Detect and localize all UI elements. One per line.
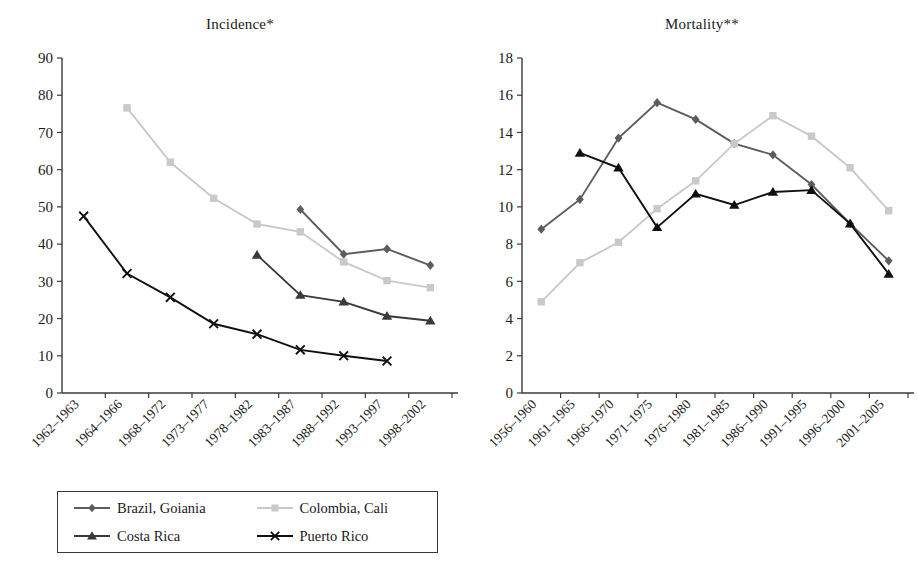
square-marker bbox=[653, 205, 660, 212]
square-marker bbox=[885, 207, 892, 214]
legend-label: Colombia, Cali bbox=[300, 501, 389, 516]
y-axis-tick-label: 12 bbox=[498, 162, 513, 178]
triangle-marker bbox=[691, 189, 701, 198]
incidence-plot-area: 01020304050607080901962–19631964–1966196… bbox=[0, 0, 460, 480]
square-marker bbox=[123, 104, 130, 111]
series-line-brazil-goiania bbox=[300, 209, 430, 265]
series-line-costa-rica bbox=[580, 153, 889, 274]
y-axis-tick-label: 0 bbox=[506, 385, 514, 401]
y-axis-tick-label: 40 bbox=[38, 236, 53, 252]
legend-item: Brazil, Goiania bbox=[72, 494, 255, 522]
y-axis-tick-label: 14 bbox=[498, 125, 514, 141]
mortality-plot-area: 0246810121416181956–19601961–19651966–19… bbox=[458, 0, 918, 480]
y-axis-tick-label: 30 bbox=[38, 274, 53, 290]
square-marker bbox=[427, 284, 434, 291]
legend-label: Costa Rica bbox=[117, 529, 180, 544]
legend-swatch-square-icon bbox=[255, 501, 295, 515]
diamond-marker bbox=[88, 504, 95, 513]
square-marker bbox=[576, 259, 583, 266]
y-axis-tick-label: 50 bbox=[38, 199, 53, 215]
y-axis-tick-label: 10 bbox=[498, 199, 513, 215]
y-axis-tick-label: 60 bbox=[38, 162, 53, 178]
square-marker bbox=[271, 504, 278, 511]
x-marker bbox=[123, 269, 132, 278]
square-marker bbox=[692, 177, 699, 184]
y-axis-tick-label: 0 bbox=[46, 385, 54, 401]
mortality-chart-panel: Mortality** 0246810121416181956–19601961… bbox=[458, 0, 918, 563]
y-axis-tick-label: 80 bbox=[38, 87, 53, 103]
legend-swatch-x-icon bbox=[255, 529, 295, 543]
square-marker bbox=[769, 112, 776, 119]
legend-item: Colombia, Cali bbox=[255, 494, 438, 522]
y-axis-tick-label: 8 bbox=[506, 236, 514, 252]
legend-swatch-triangle-icon bbox=[72, 529, 112, 543]
square-marker bbox=[297, 228, 304, 235]
series-line-puerto-rico bbox=[84, 216, 387, 361]
x-axis-tick-label: 1998–2002 bbox=[375, 397, 429, 451]
y-axis-tick-label: 2 bbox=[506, 348, 514, 364]
y-axis-tick-label: 18 bbox=[498, 50, 513, 66]
square-marker bbox=[731, 140, 738, 147]
square-marker bbox=[383, 277, 390, 284]
incidence-chart-panel: Incidence* 01020304050607080901962–19631… bbox=[0, 0, 460, 563]
x-marker bbox=[166, 293, 175, 302]
square-marker bbox=[340, 258, 347, 265]
diamond-marker bbox=[426, 261, 434, 270]
y-axis-tick-label: 20 bbox=[38, 311, 53, 327]
triangle-marker bbox=[575, 148, 585, 157]
series-line-colombia-cali bbox=[127, 108, 430, 288]
legend-label: Puerto Rico bbox=[300, 529, 369, 544]
square-marker bbox=[615, 239, 622, 246]
diamond-marker bbox=[692, 115, 700, 124]
square-marker bbox=[538, 298, 545, 305]
x-marker bbox=[79, 212, 88, 221]
legend-label: Brazil, Goiania bbox=[117, 501, 206, 516]
triangle-marker bbox=[252, 250, 262, 259]
y-axis-tick-label: 6 bbox=[506, 274, 514, 290]
y-axis-tick-label: 90 bbox=[38, 50, 53, 66]
series-line-chile bbox=[541, 103, 888, 261]
incidence-legend: Brazil, GoianiaColombia, CaliCosta RicaP… bbox=[57, 491, 438, 553]
square-marker bbox=[210, 195, 217, 202]
y-axis-tick-label: 10 bbox=[38, 348, 53, 364]
square-marker bbox=[808, 132, 815, 139]
y-axis-tick-label: 4 bbox=[506, 311, 514, 327]
square-marker bbox=[846, 164, 853, 171]
y-axis-tick-label: 16 bbox=[498, 87, 514, 103]
square-marker bbox=[253, 220, 260, 227]
legend-swatch-diamond-icon bbox=[72, 501, 112, 515]
y-axis-tick-label: 70 bbox=[38, 125, 53, 141]
square-marker bbox=[167, 159, 174, 166]
legend-item: Costa Rica bbox=[72, 522, 255, 550]
legend-item: Puerto Rico bbox=[255, 522, 438, 550]
diamond-marker bbox=[383, 244, 391, 253]
